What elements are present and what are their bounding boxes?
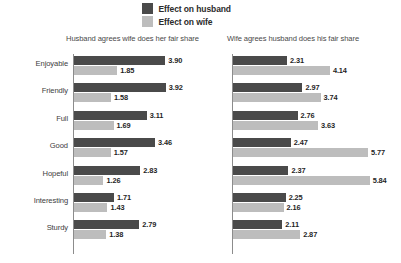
bar-husband-sturdy [233, 220, 282, 229]
bar-group-husband: 3.92 [74, 83, 183, 92]
bar-value-label: 1.71 [117, 193, 131, 202]
category-label-good: Good [0, 141, 68, 150]
bar-value-label: 2.31 [290, 56, 304, 65]
bar-value-label: 2.79 [142, 220, 156, 229]
legend-swatch-husband-icon [142, 3, 153, 14]
bar-group-wife: 1.58 [74, 93, 128, 102]
bar-value-label: 3.92 [169, 83, 183, 92]
bar-row: Enjoyable3.901.85 [0, 52, 205, 79]
bar-group-husband: 3.46 [74, 138, 172, 147]
bar-group-wife: 3.74 [233, 93, 338, 102]
chart-panel-right: Wife agrees husband does his fair share … [205, 34, 401, 260]
panel-title-left: Husband agrees wife does her fair share [66, 34, 199, 43]
bar-value-label: 2.11 [285, 220, 299, 229]
bar-row: Sturdy2.791.38 [0, 216, 205, 243]
bar-row: 2.314.14 [205, 52, 401, 79]
bar-wife-interesting [233, 203, 284, 212]
bar-row: 2.112.87 [205, 216, 401, 243]
bar-husband-interesting [74, 193, 114, 202]
bar-group-wife: 5.77 [233, 148, 385, 157]
bar-wife-full [233, 121, 318, 130]
bar-husband-enjoyable [233, 56, 287, 65]
category-label-friendly: Friendly [0, 86, 68, 95]
bar-row: 2.475.77 [205, 134, 401, 161]
bar-row: Full3.111.69 [0, 107, 205, 134]
bar-group-husband: 2.79 [74, 220, 156, 229]
bar-group-husband: 2.11 [233, 220, 299, 229]
bar-value-label: 5.77 [371, 148, 385, 157]
legend-label-husband: Effect on husband [159, 4, 231, 14]
bar-wife-enjoyable [74, 66, 117, 75]
bar-husband-interesting [233, 193, 286, 202]
bar-group-wife: 3.63 [233, 121, 335, 130]
bar-row: Hopeful2.831.26 [0, 162, 205, 189]
bar-husband-friendly [233, 83, 302, 92]
bar-wife-good [74, 148, 111, 157]
bar-group-wife: 2.87 [233, 230, 317, 239]
bar-wife-sturdy [74, 230, 106, 239]
bar-value-label: 2.76 [301, 111, 315, 120]
bar-value-label: 2.87 [303, 230, 317, 239]
bar-rows-right: 2.314.142.973.742.763.632.475.772.375.84… [205, 52, 401, 244]
legend-item-husband: Effect on husband [142, 3, 260, 14]
bar-row: 2.252.16 [205, 189, 401, 216]
bar-wife-hopeful [74, 176, 103, 185]
bar-value-label: 1.38 [109, 230, 123, 239]
bar-group-husband: 2.37 [233, 166, 305, 175]
bar-value-label: 3.90 [168, 56, 182, 65]
bar-wife-interesting [74, 203, 107, 212]
legend-item-wife: Effect on wife [142, 16, 260, 27]
category-label-enjoyable: Enjoyable [0, 59, 68, 68]
bar-row: 2.375.84 [205, 162, 401, 189]
bar-value-label: 1.26 [106, 176, 120, 185]
bar-husband-friendly [74, 83, 166, 92]
bar-wife-enjoyable [233, 66, 330, 75]
bar-value-label: 3.46 [158, 138, 172, 147]
bar-husband-full [233, 111, 298, 120]
chart-legend: Effect on husband Effect on wife [0, 3, 401, 27]
bar-value-label: 2.47 [294, 138, 308, 147]
bar-value-label: 3.11 [150, 111, 164, 120]
category-label-hopeful: Hopeful [0, 169, 68, 178]
bar-wife-full [74, 121, 114, 130]
bar-group-husband: 2.47 [233, 138, 308, 147]
bar-group-wife: 1.57 [74, 148, 128, 157]
panel-title-right: Wife agrees husband does his fair share [227, 34, 359, 43]
bar-value-label: 3.63 [321, 121, 335, 130]
bar-husband-enjoyable [74, 56, 165, 65]
bar-value-label: 2.25 [289, 193, 303, 202]
bar-value-label: 2.83 [143, 166, 157, 175]
bar-wife-friendly [74, 93, 111, 102]
bar-value-label: 1.69 [117, 121, 131, 130]
bar-row: Friendly3.921.58 [0, 79, 205, 106]
bar-value-label: 3.74 [324, 93, 338, 102]
bar-row: 2.973.74 [205, 79, 401, 106]
bar-value-label: 5.84 [373, 176, 387, 185]
bar-group-wife: 1.85 [74, 66, 134, 75]
category-label-full: Full [0, 114, 68, 123]
bar-value-label: 2.37 [291, 166, 305, 175]
bar-husband-sturdy [74, 220, 139, 229]
legend-label-wife: Effect on wife [159, 17, 213, 27]
bar-group-husband: 1.71 [74, 193, 131, 202]
bar-wife-friendly [233, 93, 321, 102]
bar-group-husband: 2.25 [233, 193, 303, 202]
category-label-interesting: Interesting [0, 196, 68, 205]
plot-area-left: Enjoyable3.901.85Friendly3.921.58Full3.1… [0, 52, 205, 256]
bar-group-wife: 1.26 [74, 176, 120, 185]
bar-row: 2.763.63 [205, 107, 401, 134]
chart-panel-left: Husband agrees wife does her fair share … [0, 34, 205, 260]
bar-group-husband: 2.83 [74, 166, 157, 175]
category-label-sturdy: Sturdy [0, 223, 68, 232]
bar-value-label: 1.58 [114, 93, 128, 102]
bar-husband-hopeful [233, 166, 288, 175]
bar-husband-full [74, 111, 147, 120]
bar-value-label: 1.57 [114, 148, 128, 157]
legend-swatch-wife-icon [142, 16, 153, 27]
bar-group-husband: 3.11 [74, 111, 163, 120]
bar-wife-sturdy [233, 230, 300, 239]
bar-group-husband: 3.90 [74, 56, 182, 65]
bar-group-wife: 4.14 [233, 66, 347, 75]
bar-row: Good3.461.57 [0, 134, 205, 161]
bar-group-wife: 5.84 [233, 176, 387, 185]
